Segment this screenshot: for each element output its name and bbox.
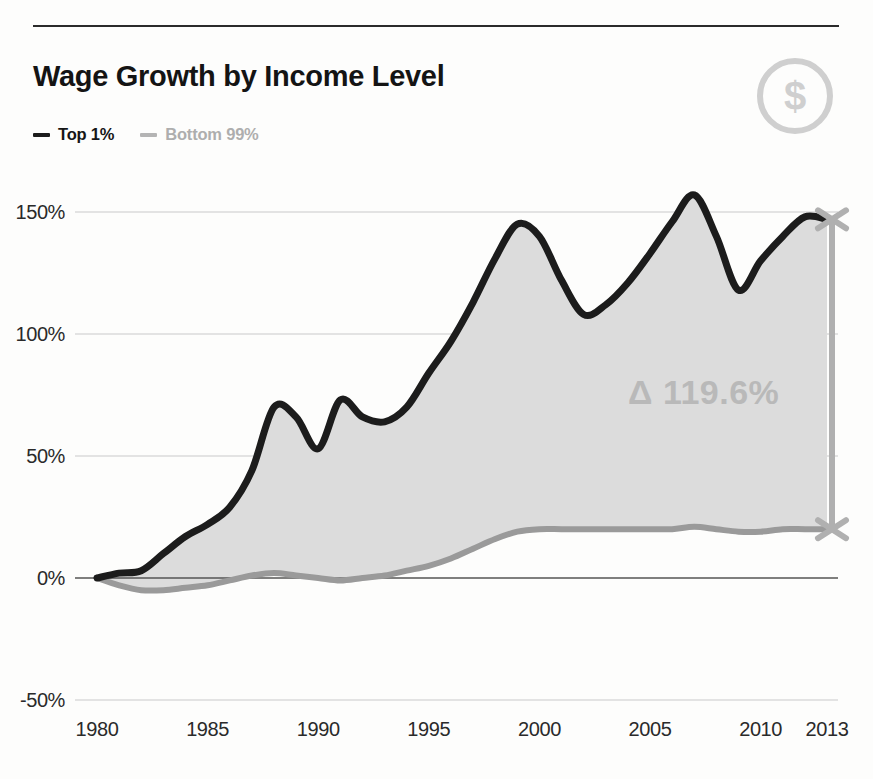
x-axis-tick-label: 2013 xyxy=(806,718,849,741)
y-axis-tick-label: 50% xyxy=(0,445,65,468)
x-axis-tick-label: 2000 xyxy=(518,718,561,741)
x-axis-tick-label: 2005 xyxy=(629,718,672,741)
x-axis-tick-label: 1995 xyxy=(407,718,450,741)
x-axis-tick-label: 1985 xyxy=(186,718,229,741)
y-axis-tick-label: 0% xyxy=(0,567,65,590)
y-axis-tick-label: 100% xyxy=(0,323,65,346)
x-axis-tick-label: 1990 xyxy=(297,718,340,741)
delta-annotation: Δ 119.6% xyxy=(628,373,779,412)
y-axis-tick-label: -50% xyxy=(0,689,65,712)
x-axis-tick-label: 2010 xyxy=(739,718,782,741)
chart-page: Wage Growth by Income Level Top 1% Botto… xyxy=(0,0,873,779)
y-axis-tick-label: 150% xyxy=(0,201,65,224)
x-axis-tick-label: 1980 xyxy=(76,718,119,741)
